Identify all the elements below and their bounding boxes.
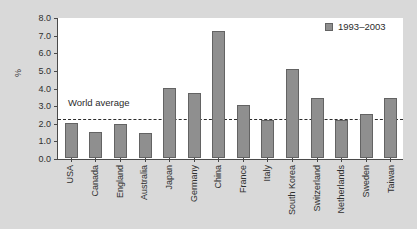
bar[interactable] — [384, 98, 397, 158]
bar[interactable] — [65, 123, 78, 158]
x-tick-mark — [317, 158, 318, 162]
x-tick-label: France — [238, 165, 248, 193]
x-tick-label: Canada — [90, 165, 100, 197]
y-tick-label: 1.0 — [25, 136, 51, 146]
y-tick-mark — [54, 89, 58, 90]
x-label-slot: England — [107, 163, 132, 227]
bar[interactable] — [360, 114, 373, 158]
bar-slot — [133, 18, 158, 158]
x-tick-label: Japan — [164, 165, 174, 190]
bar-slot — [59, 18, 84, 158]
x-tick-label: England — [115, 165, 125, 198]
x-label-slot: Switzerland — [304, 163, 329, 227]
y-tick-mark — [54, 124, 58, 125]
bar[interactable] — [188, 93, 201, 158]
x-tick-label: Australia — [139, 165, 149, 200]
y-tick-label: 2.0 — [25, 119, 51, 129]
bar[interactable] — [89, 132, 102, 158]
x-tick-mark — [194, 158, 195, 162]
bar[interactable] — [163, 88, 176, 159]
x-label-slot: USA — [58, 163, 83, 227]
x-tick-mark — [71, 158, 72, 162]
y-tick-label: 8.0 — [25, 13, 51, 23]
bar[interactable] — [212, 31, 225, 158]
x-label-slot: Germany — [181, 163, 206, 227]
bar-slot — [231, 18, 256, 158]
bar[interactable] — [335, 120, 348, 158]
x-label-slot: Sweden — [354, 163, 379, 227]
x-label-slot: France — [230, 163, 255, 227]
legend: 1993–2003 — [325, 21, 386, 32]
x-label-slot: Italy — [255, 163, 280, 227]
x-axis-labels: USACanadaEnglandAustraliaJapanGermanyChi… — [58, 163, 403, 227]
x-label-slot: China — [206, 163, 231, 227]
chart-figure: % 0.01.02.03.04.05.06.07.08.0 World aver… — [0, 0, 417, 229]
x-tick-mark — [169, 158, 170, 162]
bar[interactable] — [286, 69, 299, 158]
bar-slot — [379, 18, 404, 158]
x-tick-mark — [341, 158, 342, 162]
y-tick-label: 4.0 — [25, 84, 51, 94]
legend-label: 1993–2003 — [338, 21, 386, 32]
x-tick-label: Sweden — [361, 165, 371, 198]
y-tick-mark — [54, 71, 58, 72]
y-tick-label: 0.0 — [25, 154, 51, 164]
x-tick-mark — [145, 158, 146, 162]
x-tick-mark — [243, 158, 244, 162]
y-tick-mark — [54, 36, 58, 37]
x-label-slot: Taiwan — [378, 163, 403, 227]
bar[interactable] — [114, 124, 127, 158]
x-tick-mark — [120, 158, 121, 162]
bar[interactable] — [261, 120, 274, 158]
bar-series — [59, 18, 403, 158]
bar[interactable] — [237, 105, 250, 158]
bar-slot — [108, 18, 133, 158]
x-tick-mark — [390, 158, 391, 162]
x-tick-label: Italy — [262, 165, 272, 182]
x-tick-label: USA — [65, 165, 75, 184]
y-tick-mark — [54, 106, 58, 107]
bar[interactable] — [311, 98, 324, 158]
x-tick-mark — [292, 158, 293, 162]
x-label-slot: Japan — [157, 163, 182, 227]
x-tick-label: Taiwan — [386, 165, 396, 193]
y-tick-mark — [54, 53, 58, 54]
plot-area: 0.01.02.03.04.05.06.07.08.0 World averag… — [57, 18, 403, 160]
x-tick-mark — [366, 158, 367, 162]
y-tick-label: 6.0 — [25, 48, 51, 58]
y-tick-label: 3.0 — [25, 101, 51, 111]
x-label-slot: South Korea — [280, 163, 305, 227]
y-tick-mark — [54, 18, 58, 19]
y-tick-mark — [54, 141, 58, 142]
bar-slot — [182, 18, 207, 158]
bar-slot — [157, 18, 182, 158]
bar-slot — [305, 18, 330, 158]
bar-slot — [84, 18, 109, 158]
x-tick-label: China — [213, 165, 223, 189]
x-tick-label: South Korea — [287, 165, 297, 215]
x-tick-label: Netherlands — [336, 165, 346, 214]
x-tick-label: Germany — [189, 165, 199, 202]
y-tick-mark — [54, 159, 58, 160]
bar-slot — [206, 18, 231, 158]
bar[interactable] — [139, 133, 152, 158]
y-tick-label: 7.0 — [25, 31, 51, 41]
x-label-slot: Canada — [83, 163, 108, 227]
x-label-slot: Netherlands — [329, 163, 354, 227]
bar-slot — [354, 18, 379, 158]
x-label-slot: Australia — [132, 163, 157, 227]
bar-slot — [280, 18, 305, 158]
x-tick-mark — [218, 158, 219, 162]
x-tick-label: Switzerland — [312, 165, 322, 212]
legend-swatch-icon — [325, 23, 333, 31]
y-axis-label: % — [13, 63, 23, 83]
x-tick-mark — [267, 158, 268, 162]
bar-slot — [256, 18, 281, 158]
bar-slot — [329, 18, 354, 158]
y-tick-label: 5.0 — [25, 66, 51, 76]
x-tick-mark — [95, 158, 96, 162]
